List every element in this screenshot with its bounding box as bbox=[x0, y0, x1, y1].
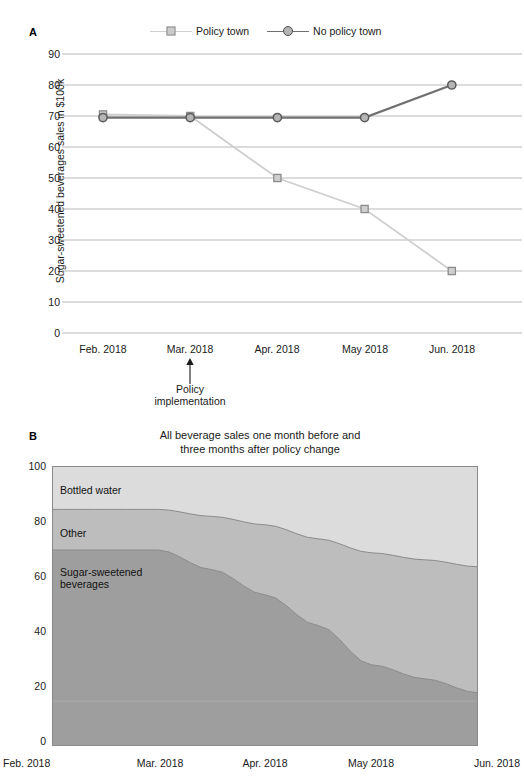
x-tick-feb: Feb. 2018 bbox=[79, 343, 126, 355]
panel-b-letter: B bbox=[29, 430, 37, 442]
panel-b-title-line-1: All beverage sales one month before and bbox=[90, 428, 430, 442]
x-tick-may: May 2018 bbox=[342, 343, 388, 355]
panel-b-x-tick-jun: Jun. 2018 bbox=[474, 757, 520, 769]
policy-implementation-annotation: Policy implementation bbox=[154, 383, 225, 407]
panel-b-y-tick-40: 40 bbox=[20, 625, 46, 637]
panel-a-y-ticks: 90 80 70 60 50 40 30 20 10 0 bbox=[32, 0, 60, 420]
panel-b-x-tick-feb: Feb. 2018 bbox=[3, 757, 50, 769]
panel-b-x-tick-mar: Mar. 2018 bbox=[137, 757, 184, 769]
x-tick-apr: Apr. 2018 bbox=[255, 343, 300, 355]
area-label-other: Other bbox=[60, 527, 86, 539]
y-tick-90: 90 bbox=[34, 48, 60, 60]
panel-a: A Policy town No policy town Sugar-sweet… bbox=[0, 0, 524, 420]
panel-b-x-tick-apr: Apr. 2018 bbox=[243, 757, 288, 769]
y-tick-70: 70 bbox=[34, 110, 60, 122]
panel-b-y-tick-100: 100 bbox=[20, 460, 46, 472]
panel-a-plot bbox=[62, 14, 522, 354]
y-tick-40: 40 bbox=[34, 203, 60, 215]
y-tick-80: 80 bbox=[34, 79, 60, 91]
panel-a-gridlines bbox=[62, 54, 522, 333]
annotation-line-2: implementation bbox=[154, 395, 225, 407]
annotation-line-1: Policy bbox=[154, 383, 225, 395]
panel-b-plot bbox=[52, 466, 478, 746]
panel-b-y-tick-20: 20 bbox=[20, 680, 46, 692]
y-tick-0: 0 bbox=[34, 327, 60, 339]
area-label-ssb-line-2: beverages bbox=[60, 578, 142, 590]
figure-root: A Policy town No policy town Sugar-sweet… bbox=[0, 0, 524, 777]
y-tick-50: 50 bbox=[34, 172, 60, 184]
area-label-ssb-line-1: Sugar-sweetened bbox=[60, 566, 142, 578]
y-tick-60: 60 bbox=[34, 141, 60, 153]
y-tick-20: 20 bbox=[34, 265, 60, 277]
y-tick-10: 10 bbox=[34, 296, 60, 308]
panel-b-y-tick-80: 80 bbox=[20, 515, 46, 527]
y-tick-30: 30 bbox=[34, 234, 60, 246]
policy-implementation-arrow-icon bbox=[183, 358, 197, 384]
area-label-sugar-sweetened-beverages: Sugar-sweetened beverages bbox=[60, 566, 142, 590]
panel-b-title-line-2: three months after policy change bbox=[90, 442, 430, 456]
x-tick-jun: Jun. 2018 bbox=[429, 343, 475, 355]
panel-b-y-tick-0: 0 bbox=[20, 735, 46, 747]
panel-b: B All beverage sales one month before an… bbox=[0, 420, 524, 777]
panel-b-areas bbox=[52, 466, 478, 746]
panel-b-x-tick-may: May 2018 bbox=[348, 757, 394, 769]
area-label-bottled-water: Bottled water bbox=[60, 484, 121, 496]
panel-b-title: All beverage sales one month before and … bbox=[90, 428, 430, 456]
panel-b-y-tick-60: 60 bbox=[20, 570, 46, 582]
x-tick-mar: Mar. 2018 bbox=[167, 343, 214, 355]
